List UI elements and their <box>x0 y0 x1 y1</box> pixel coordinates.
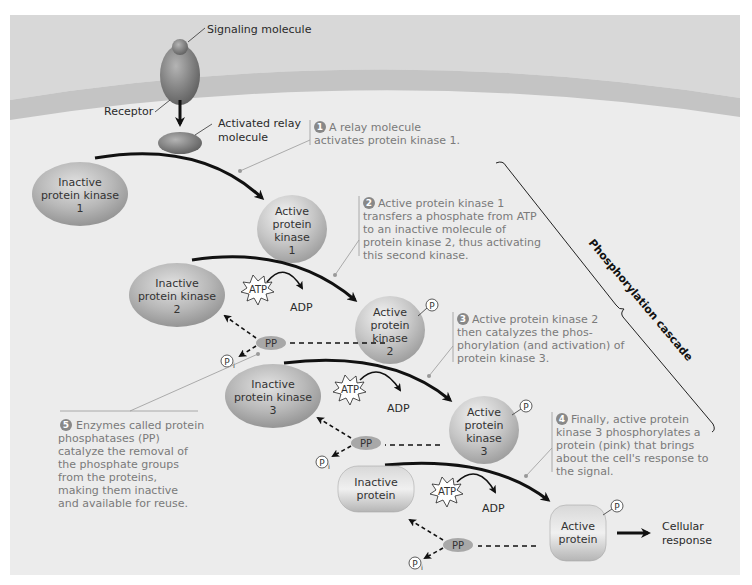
svg-text:from the proteins,: from the proteins, <box>58 471 157 484</box>
phosphate-k3: P <box>520 400 532 412</box>
inactive-protein-kinase-2: Inactive protein kinase 2 <box>129 263 225 327</box>
active-protein-kinase-3: Active protein kinase 3 <box>449 396 519 464</box>
svg-text:2: 2 <box>174 303 181 316</box>
svg-text:3: 3 <box>270 404 277 417</box>
svg-text:Active: Active <box>373 306 407 319</box>
svg-text:2: 2 <box>366 198 372 208</box>
svg-text:kinase 3 phosphorylates a: kinase 3 phosphorylates a <box>556 426 701 439</box>
svg-text:protein kinase: protein kinase <box>234 391 312 404</box>
adp-label-3: ADP <box>482 502 505 515</box>
svg-text:5: 5 <box>63 420 69 430</box>
svg-text:Finally, active protein: Finally, active protein <box>571 413 689 426</box>
svg-text:P: P <box>319 458 325 468</box>
svg-text:2: 2 <box>387 345 394 358</box>
receptor-label: Receptor <box>104 105 154 118</box>
svg-text:A relay molecule: A relay molecule <box>329 121 421 134</box>
inactive-protein: Inactive protein <box>338 466 414 512</box>
svg-text:Active: Active <box>275 205 309 218</box>
active-protein-kinase-2: Active protein kinase 2 <box>355 296 425 364</box>
svg-text:4: 4 <box>559 414 565 424</box>
svg-text:P: P <box>614 502 620 512</box>
svg-text:PP: PP <box>265 338 277 349</box>
svg-text:Inactive: Inactive <box>58 176 102 189</box>
svg-text:protein kinase: protein kinase <box>138 290 216 303</box>
adp-label-2: ADP <box>387 402 410 415</box>
svg-text:1: 1 <box>317 122 323 132</box>
svg-text:Inactive: Inactive <box>251 378 295 391</box>
svg-text:the signal.: the signal. <box>556 465 614 478</box>
svg-text:Inactive: Inactive <box>354 476 398 489</box>
svg-text:and available for reuse.: and available for reuse. <box>58 497 188 510</box>
relay-label-1: Activated relay <box>218 117 301 130</box>
inactive-protein-kinase-1: Inactive protein kinase 1 <box>32 162 128 226</box>
relay-molecule <box>158 132 202 154</box>
svg-text:P: P <box>412 559 418 569</box>
svg-text:i: i <box>328 463 330 471</box>
svg-text:Active protein kinase 1: Active protein kinase 1 <box>378 197 504 210</box>
cellular-response-label-2: response <box>662 534 712 547</box>
svg-text:activates protein kinase 1.: activates protein kinase 1. <box>314 134 460 147</box>
svg-text:transfers a phosphate from ATP: transfers a phosphate from ATP <box>363 210 537 223</box>
svg-text:PP: PP <box>360 438 372 449</box>
atp-label-1: ATP <box>249 284 267 295</box>
svg-text:catalyze the removal of: catalyze the removal of <box>58 445 189 458</box>
svg-text:protein kinase 2, thus activat: protein kinase 2, thus activating <box>363 236 541 249</box>
svg-text:P: P <box>224 357 230 367</box>
svg-text:to an inactive molecule of: to an inactive molecule of <box>363 223 507 236</box>
svg-text:P: P <box>523 402 529 412</box>
relay-label-2: molecule <box>218 131 268 144</box>
active-protein: Active protein <box>550 505 606 561</box>
svg-text:protein: protein <box>558 533 597 546</box>
svg-text:protein kinase: protein kinase <box>41 189 119 202</box>
svg-text:Active: Active <box>467 406 501 419</box>
svg-text:protein: protein <box>356 489 395 502</box>
svg-text:this second kinase.: this second kinase. <box>363 249 468 262</box>
svg-text:protein (pink) that brings: protein (pink) that brings <box>556 439 694 452</box>
svg-text:protein: protein <box>370 319 409 332</box>
svg-text:making them inactive: making them inactive <box>58 484 178 497</box>
svg-text:phosphatases (PP): phosphatases (PP) <box>58 432 160 445</box>
svg-text:protein: protein <box>464 419 503 432</box>
svg-text:protein kinase 3.: protein kinase 3. <box>457 352 549 365</box>
svg-text:Active: Active <box>561 520 595 533</box>
svg-text:Inactive: Inactive <box>155 277 199 290</box>
svg-text:1: 1 <box>289 244 296 257</box>
svg-text:Enzymes called protein: Enzymes called protein <box>76 419 204 432</box>
svg-text:P: P <box>429 301 435 311</box>
svg-text:phorylation (and activation) o: phorylation (and activation) of <box>457 339 626 352</box>
phosphate-k2: P <box>426 299 438 311</box>
svg-text:about the cell's response to: about the cell's response to <box>556 452 709 465</box>
svg-text:kinase: kinase <box>466 432 502 445</box>
svg-text:PP: PP <box>452 540 464 551</box>
svg-text:i: i <box>233 362 235 370</box>
svg-text:3: 3 <box>481 445 488 458</box>
adp-label-1: ADP <box>290 301 313 314</box>
svg-text:i: i <box>421 564 423 572</box>
inactive-protein-kinase-3: Inactive protein kinase 3 <box>225 364 321 428</box>
svg-text:kinase: kinase <box>274 231 310 244</box>
svg-text:the phosphate groups: the phosphate groups <box>58 458 179 471</box>
svg-text:protein: protein <box>272 218 311 231</box>
svg-text:3: 3 <box>460 314 466 324</box>
svg-text:then catalyzes the phos-: then catalyzes the phos- <box>457 326 593 339</box>
atp-label-2: ATP <box>341 384 359 395</box>
phosphate-protein: P <box>611 500 623 512</box>
cellular-response-label-1: Cellular <box>662 520 704 533</box>
atp-label-3: ATP <box>438 486 456 497</box>
svg-text:1: 1 <box>77 202 84 215</box>
active-protein-kinase-1: Active protein kinase 1 <box>257 195 327 263</box>
svg-text:kinase: kinase <box>372 332 408 345</box>
signaling-molecule-label: Signaling molecule <box>207 23 312 36</box>
svg-text:Active protein kinase 2: Active protein kinase 2 <box>472 313 598 326</box>
phosphorylation-cascade-diagram: Signaling molecule Receptor Activated re… <box>0 0 752 585</box>
